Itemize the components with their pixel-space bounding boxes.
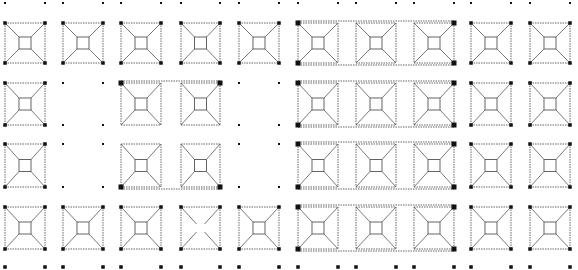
column-marker bbox=[568, 205, 572, 209]
hip-line bbox=[324, 144, 338, 160]
hip-line bbox=[324, 23, 338, 37]
hip-line bbox=[530, 144, 544, 160]
inner-square bbox=[544, 222, 556, 234]
column-marker bbox=[296, 247, 301, 252]
hip-line bbox=[31, 207, 45, 222]
hip-line bbox=[207, 23, 221, 37]
column-marker bbox=[296, 205, 301, 210]
inner-square bbox=[77, 222, 89, 234]
grid-dot bbox=[355, 2, 357, 4]
hip-line bbox=[121, 207, 135, 222]
column-marker bbox=[3, 205, 7, 209]
column-marker bbox=[179, 205, 183, 209]
hip-line bbox=[414, 83, 428, 98]
hip-line bbox=[356, 83, 370, 98]
hip-line bbox=[89, 207, 103, 222]
column-marker bbox=[568, 142, 572, 146]
column-marker bbox=[452, 247, 457, 252]
column-marker bbox=[469, 265, 473, 269]
column-marker bbox=[159, 21, 163, 25]
hip-line bbox=[239, 207, 253, 222]
inner-square bbox=[312, 98, 324, 110]
column-marker bbox=[101, 205, 105, 209]
grid-dot bbox=[337, 2, 339, 4]
column-marker bbox=[101, 21, 105, 25]
hip-line bbox=[181, 232, 197, 249]
column-marker bbox=[469, 185, 473, 189]
grid-dot bbox=[238, 143, 240, 145]
column-marker bbox=[509, 21, 513, 25]
hip-line bbox=[414, 144, 428, 160]
grid-dot bbox=[120, 2, 122, 4]
inner-square bbox=[195, 98, 207, 110]
hip-line bbox=[31, 144, 45, 160]
hip-line bbox=[181, 83, 195, 98]
column-marker bbox=[119, 265, 123, 269]
column-marker bbox=[568, 61, 572, 65]
column-marker bbox=[469, 205, 473, 209]
hip-line bbox=[497, 49, 511, 63]
column-marker bbox=[509, 142, 513, 146]
hip-line bbox=[471, 110, 485, 125]
grid-dot bbox=[62, 143, 64, 145]
hip-line bbox=[382, 234, 396, 249]
hip-line bbox=[181, 110, 195, 125]
hip-line bbox=[324, 110, 338, 125]
hip-line bbox=[265, 49, 279, 63]
column-marker bbox=[528, 61, 532, 65]
column-marker bbox=[61, 265, 65, 269]
hip-line bbox=[556, 83, 570, 98]
hip-line bbox=[414, 207, 428, 222]
column-marker bbox=[43, 142, 47, 146]
grid-dot bbox=[102, 186, 104, 188]
column-marker bbox=[336, 265, 340, 269]
hip-line bbox=[530, 234, 544, 249]
grid-dot bbox=[160, 2, 162, 4]
inner-square bbox=[428, 98, 440, 110]
hip-line bbox=[5, 172, 19, 188]
grid-dot bbox=[102, 124, 104, 126]
column-marker bbox=[469, 81, 473, 85]
column-marker bbox=[296, 142, 301, 147]
column-marker bbox=[119, 185, 124, 190]
hip-line bbox=[556, 234, 570, 249]
hip-line bbox=[147, 207, 161, 222]
hip-line bbox=[147, 234, 161, 249]
column-marker bbox=[568, 21, 572, 25]
inner-square bbox=[428, 160, 440, 172]
inner-square bbox=[195, 160, 207, 172]
column-marker bbox=[469, 123, 473, 127]
hip-line bbox=[121, 110, 135, 125]
column-marker bbox=[452, 61, 457, 66]
column-marker bbox=[296, 21, 301, 26]
column-marker bbox=[568, 247, 572, 251]
column-marker bbox=[469, 21, 473, 25]
hip-line bbox=[356, 110, 370, 125]
column-marker bbox=[61, 21, 65, 25]
grid-dot bbox=[413, 2, 415, 4]
column-marker bbox=[101, 247, 105, 251]
hip-line bbox=[382, 83, 396, 98]
column-marker bbox=[159, 265, 163, 269]
hip-line bbox=[497, 23, 511, 37]
hip-line bbox=[31, 234, 45, 249]
column-marker bbox=[528, 185, 532, 189]
column-marker bbox=[218, 265, 222, 269]
hip-line bbox=[5, 83, 19, 98]
grid-dot bbox=[102, 2, 104, 4]
hip-line bbox=[181, 23, 195, 37]
hip-line bbox=[497, 234, 511, 249]
grid-dot bbox=[470, 2, 472, 4]
hip-line bbox=[414, 234, 428, 249]
hip-line bbox=[205, 207, 221, 224]
column-marker bbox=[394, 265, 398, 269]
grid-dot bbox=[62, 186, 64, 188]
column-marker bbox=[568, 185, 572, 189]
hip-line bbox=[414, 49, 428, 63]
grid-dot bbox=[62, 124, 64, 126]
column-marker bbox=[3, 142, 7, 146]
grid-dot bbox=[278, 82, 280, 84]
column-marker bbox=[237, 21, 241, 25]
hip-line bbox=[382, 172, 396, 188]
hip-line bbox=[471, 172, 485, 188]
